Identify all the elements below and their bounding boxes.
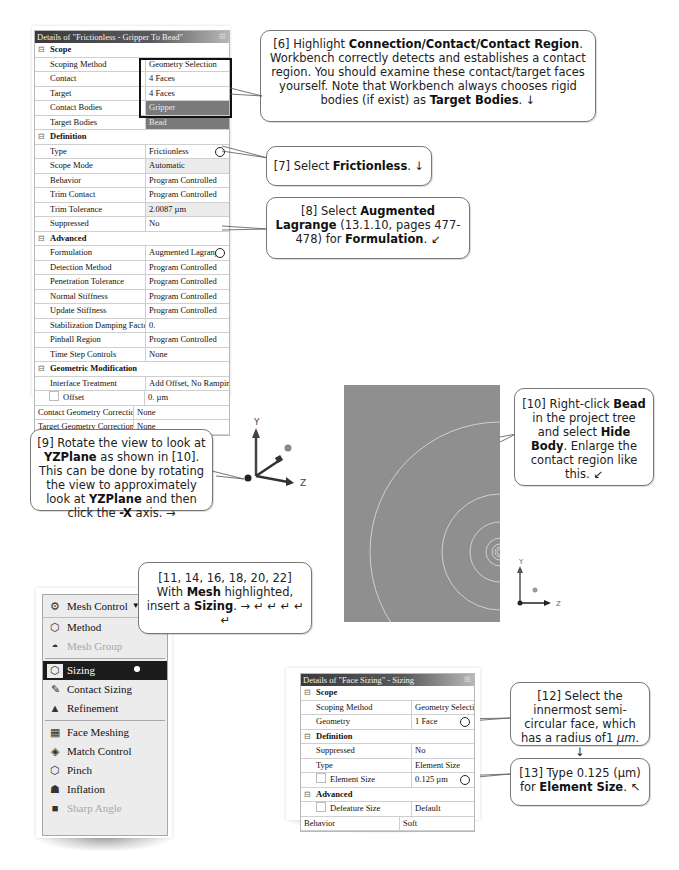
collapse-icon[interactable]: ⊟ [35, 43, 47, 57]
row-value[interactable]: Geometry Selection [412, 701, 474, 715]
row-value[interactable]: Default [412, 802, 474, 816]
callout-9: [9] Rotate the view to look at YZPlane a… [30, 429, 213, 511]
pinch-icon: ⬡ [47, 764, 63, 778]
collapse-icon[interactable]: ⊟ [301, 788, 313, 802]
details-row[interactable]: Penetration ToleranceProgram Controlled [35, 275, 229, 290]
row-label: Interface Treatment [47, 377, 146, 391]
menu-item-face-meshing[interactable]: ▦Face Meshing [43, 723, 167, 742]
row-value[interactable]: Automatic [146, 159, 229, 173]
section-header[interactable]: ⊟Definition [301, 730, 474, 745]
menu-item-mesh-group: ◓Mesh Group [43, 637, 167, 656]
row-value[interactable]: Program Controlled [146, 304, 229, 318]
details-row[interactable]: Pinball RegionProgram Controlled [35, 333, 229, 348]
section-header[interactable]: ⊟Advanced [301, 788, 474, 803]
details-row[interactable]: Stabilization Damping Factor0. [35, 319, 229, 334]
details-row[interactable]: BehaviorSoft [301, 817, 474, 832]
details-row[interactable]: Scoping MethodGeometry Selection [35, 58, 229, 73]
details-row[interactable]: Scope ModeAutomatic [35, 159, 229, 174]
row-value[interactable]: Program Controlled [146, 174, 229, 188]
section-header[interactable]: ⊟Definition [35, 130, 229, 145]
row-value[interactable]: 0.125 µm [412, 773, 474, 787]
row-value[interactable]: Element Size [412, 759, 474, 773]
details-header: Details of "Frictionless - Gripper To Be… [35, 31, 229, 43]
collapse-icon[interactable]: ⊟ [301, 686, 313, 700]
details-row[interactable]: TypeElement Size [301, 759, 474, 774]
row-value[interactable]: Soft [400, 817, 474, 831]
section-header[interactable]: ⊟Advanced [35, 232, 229, 247]
details-row[interactable]: Normal StiffnessProgram Controlled [35, 290, 229, 305]
row-value[interactable]: None [146, 348, 229, 362]
details-row[interactable]: Contact Geometry CorrectionNone [35, 406, 229, 421]
details-row[interactable]: Target4 Faces [35, 87, 229, 102]
details-row[interactable]: Trim ContactProgram Controlled [35, 188, 229, 203]
row-value[interactable]: 4 Faces [146, 87, 229, 101]
menu-item-pinch[interactable]: ⬡Pinch [43, 761, 167, 780]
details-row[interactable]: Trim Tolerance2.0087 µm [35, 203, 229, 218]
row-value[interactable]: Bead [146, 116, 229, 130]
section-header[interactable]: ⊟Scope [301, 686, 474, 701]
menu-item-inflation[interactable]: ☗Inflation [43, 780, 167, 799]
row-value[interactable]: None [134, 406, 229, 420]
menu-item-sizing[interactable]: ⬡Sizing [43, 661, 167, 680]
row-label: Type [313, 759, 412, 773]
row-value[interactable]: Geometry Selection [146, 58, 229, 72]
row-value[interactable]: 4 Faces [146, 72, 229, 86]
details-row[interactable]: Interface TreatmentAdd Offset, No Rampin… [35, 377, 229, 392]
details-row[interactable]: Offset0. µm [35, 391, 229, 406]
row-value[interactable]: 0. [146, 319, 229, 333]
parameter-checkbox[interactable] [316, 773, 326, 783]
row-label: Behavior [301, 817, 400, 831]
callout-11-pointer-dot [134, 666, 140, 672]
details-row[interactable]: Defeature SizeDefault [301, 802, 474, 817]
parameter-checkbox[interactable] [316, 802, 326, 812]
row-value[interactable]: Frictionless [146, 145, 229, 159]
row-value[interactable]: Program Controlled [146, 275, 229, 289]
row-value[interactable]: 2.0087 µm [146, 203, 229, 217]
row-value[interactable]: No [412, 744, 474, 758]
menu-item-contact-sizing[interactable]: ✎Contact Sizing [43, 680, 167, 699]
row-value[interactable]: Add Offset, No Ramping [146, 377, 229, 391]
details-row[interactable]: TypeFrictionless [35, 145, 229, 160]
pin-icon[interactable]: ⊞ [219, 31, 226, 43]
details-row[interactable]: Contact BodiesGripper [35, 101, 229, 116]
row-label: Element Size [313, 773, 412, 787]
row-value[interactable]: Program Controlled [146, 333, 229, 347]
row-value[interactable]: Program Controlled [146, 261, 229, 275]
details-row[interactable]: SuppressedNo [35, 217, 229, 232]
row-label: Time Step Controls [47, 348, 146, 362]
collapse-icon[interactable]: ⊟ [35, 232, 47, 246]
collapse-icon[interactable]: ⊟ [35, 130, 47, 144]
details-row[interactable]: Scoping MethodGeometry Selection [301, 701, 474, 716]
row-value[interactable]: Augmented Lagrange [146, 246, 229, 260]
row-value[interactable]: Program Controlled [146, 188, 229, 202]
section-header[interactable]: ⊟Scope [35, 43, 229, 58]
details-row[interactable]: Detection MethodProgram Controlled [35, 261, 229, 276]
details-row[interactable]: Geometry1 Face [301, 715, 474, 730]
details-row[interactable]: Time Step ControlsNone [35, 348, 229, 363]
pin-icon[interactable]: ⊞ [464, 674, 471, 686]
row-value[interactable]: 0. µm [145, 391, 229, 405]
section-header[interactable]: ⊟Geometric Modification [35, 362, 229, 377]
details-row[interactable]: Element Size0.125 µm [301, 773, 474, 788]
details-row[interactable]: Update StiffnessProgram Controlled [35, 304, 229, 319]
axis-triad-iso[interactable]: Y Z [236, 412, 316, 492]
axis-z-label: Z [300, 478, 306, 488]
collapse-icon[interactable]: ⊟ [301, 730, 313, 744]
parameter-checkbox[interactable] [49, 391, 59, 401]
details-row[interactable]: BehaviorProgram Controlled [35, 174, 229, 189]
collapse-icon[interactable]: ⊟ [35, 362, 47, 376]
graphics-viewport[interactable] [344, 385, 500, 622]
callout-13: [13] Type 0.125 (µm) for Element Size. ↖ [510, 758, 650, 806]
details-row[interactable]: SuppressedNo [301, 744, 474, 759]
details-row[interactable]: Target BodiesBead [35, 116, 229, 131]
menu-item-refinement[interactable]: ▲Refinement [43, 699, 167, 718]
details-row[interactable]: FormulationAugmented Lagrange [35, 246, 229, 261]
menu-item-match-control[interactable]: ◈Match Control [43, 742, 167, 761]
details-row[interactable]: Contact4 Faces [35, 72, 229, 87]
row-value[interactable]: No [146, 217, 229, 231]
row-value[interactable]: Gripper [146, 101, 229, 115]
row-value[interactable]: Program Controlled [146, 290, 229, 304]
row-value[interactable]: 1 Face [412, 715, 474, 729]
row-label: Detection Method [47, 261, 146, 275]
axis-triad-yz[interactable]: Y Z [510, 555, 570, 610]
